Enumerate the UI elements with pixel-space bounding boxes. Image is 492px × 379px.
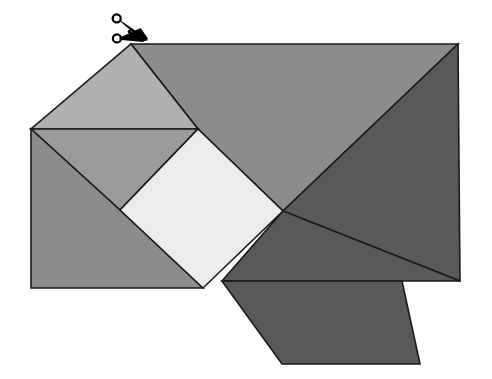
geometric-figure-canvas	[0, 0, 492, 379]
